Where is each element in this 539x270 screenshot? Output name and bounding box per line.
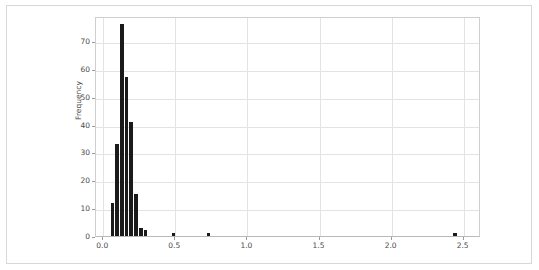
x-axis-tick-label: 1.0 — [240, 242, 252, 250]
histogram-bar — [207, 233, 211, 236]
y-axis-tick-label: 20 — [80, 177, 90, 185]
y-axis-tick-labels: 010203040506070 — [60, 0, 90, 270]
histogram-bar — [115, 144, 119, 236]
y-axis-tick-label: 60 — [80, 66, 90, 74]
x-axis-tick-mark — [319, 237, 320, 240]
gridline-horizontal — [96, 99, 479, 100]
gridline-horizontal — [96, 154, 479, 155]
gridline-horizontal — [96, 71, 479, 72]
gridline-vertical — [392, 18, 393, 236]
y-axis-tick-label: 30 — [80, 149, 90, 157]
histogram-bar — [144, 230, 148, 236]
y-axis-tick-mark — [92, 126, 95, 127]
gridline-horizontal — [96, 43, 479, 44]
gridline-horizontal — [96, 127, 479, 128]
y-axis-tick-mark — [92, 98, 95, 99]
histogram-bar — [139, 228, 143, 236]
histogram-bar — [172, 233, 176, 236]
histogram-bar — [134, 194, 138, 236]
y-axis-tick-label: 10 — [80, 205, 90, 213]
x-axis-tick-mark — [246, 237, 247, 240]
x-axis-tick-mark — [102, 237, 103, 240]
y-axis-tick-mark — [92, 70, 95, 71]
x-axis-tick-label: 0.5 — [168, 242, 180, 250]
y-axis-tick-mark — [92, 237, 95, 238]
histogram-bar — [453, 233, 457, 236]
y-axis-tick-mark — [92, 209, 95, 210]
y-axis-tick-label: 50 — [80, 94, 90, 102]
y-axis-tick-label: 40 — [80, 122, 90, 130]
gridline-vertical — [320, 18, 321, 236]
y-axis-tick-mark — [92, 181, 95, 182]
x-axis-tick-label: 2.0 — [385, 242, 397, 250]
x-axis-tick-mark — [174, 237, 175, 240]
y-axis-tick-label: 70 — [80, 38, 90, 46]
x-axis-tick-mark — [391, 237, 392, 240]
gridline-horizontal — [96, 182, 479, 183]
x-axis-tick-label: 2.5 — [457, 242, 469, 250]
x-axis-tick-label: 0.0 — [96, 242, 108, 250]
gridline-vertical — [247, 18, 248, 236]
histogram-figure: Frequency 010203040506070 0.00.51.01.52.… — [0, 0, 539, 270]
y-axis-tick-mark — [92, 42, 95, 43]
x-axis-tick-labels: 0.00.51.01.52.02.5 — [95, 242, 480, 256]
gridline-vertical — [175, 18, 176, 236]
histogram-bar — [111, 203, 115, 236]
y-axis-tick-label: 0 — [85, 233, 90, 241]
gridline-horizontal — [96, 210, 479, 211]
histogram-bar — [120, 24, 124, 236]
gridline-vertical — [103, 18, 104, 236]
gridline-vertical — [464, 18, 465, 236]
histogram-bar — [125, 77, 129, 236]
x-axis-tick-mark — [463, 237, 464, 240]
plot-area — [95, 17, 480, 237]
y-axis-tick-mark — [92, 153, 95, 154]
histogram-bar — [129, 122, 133, 236]
x-axis-tick-label: 1.5 — [313, 242, 325, 250]
